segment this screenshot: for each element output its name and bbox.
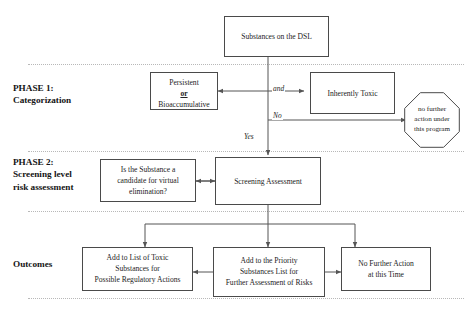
node-label-line1: Add to the Priority bbox=[216, 255, 322, 266]
node-label-line2: at this Time bbox=[344, 269, 428, 280]
node-label-line1: Is the Substance a bbox=[103, 164, 193, 175]
node-label-line2-or: or bbox=[153, 88, 215, 99]
node-label-line1: No Further Action bbox=[344, 258, 428, 269]
node-label-line1: Persistent bbox=[153, 77, 215, 88]
node-inherently-toxic[interactable]: Inherently Toxic bbox=[310, 72, 395, 114]
node-label-line2: candidate for virtual bbox=[103, 175, 193, 186]
divider-phase1-top bbox=[28, 64, 464, 65]
node-label-line2: Substances for bbox=[85, 263, 190, 274]
node-no-further-action-at-this-time[interactable]: No Further Action at this Time bbox=[341, 247, 431, 291]
edge-label-no: No bbox=[272, 111, 283, 120]
node-no-further-action-under-this-program[interactable]: no further action under this program bbox=[404, 92, 460, 148]
node-add-to-list-of-toxic-substances[interactable]: Add to List of Toxic Substances for Poss… bbox=[82, 247, 193, 291]
node-label-line4: program bbox=[426, 125, 450, 133]
phase-label-outcomes: Outcomes bbox=[13, 258, 52, 270]
node-label: Screening Assessment bbox=[234, 176, 302, 187]
node-label-line3: elimination? bbox=[103, 186, 193, 197]
node-add-to-priority-substances-list[interactable]: Add to the Priority Substances List for … bbox=[213, 247, 325, 297]
node-label-line1: Add to List of Toxic bbox=[85, 252, 190, 263]
divider-phase2-bottom bbox=[28, 211, 464, 212]
phase-label-phase1: PHASE 1: Categorization bbox=[13, 82, 71, 107]
node-screening-assessment[interactable]: Screening Assessment bbox=[215, 157, 321, 205]
node-persistent-or-bioaccumulative[interactable]: Persistent or Bioaccumulative bbox=[150, 72, 218, 110]
node-label: Inherently Toxic bbox=[327, 88, 377, 99]
flowchart-canvas: PHASE 1: Categorization PHASE 2: Screeni… bbox=[0, 0, 464, 311]
node-label-line2: Substances List for bbox=[216, 266, 322, 277]
node-label-line3: Further Assessment of Risks bbox=[216, 277, 322, 288]
node-label: Substances on the DSL bbox=[241, 31, 312, 42]
node-label-line1: no bbox=[418, 105, 425, 113]
divider-phase1-bottom bbox=[28, 151, 464, 152]
divider-outcomes-bottom bbox=[28, 298, 464, 299]
phase-label-phase2: PHASE 2: Screening level risk assessment bbox=[13, 156, 74, 193]
node-virtual-elimination-question[interactable]: Is the Substance a candidate for virtual… bbox=[100, 159, 196, 202]
edge-label-and: and bbox=[272, 84, 285, 93]
node-label: no further action under this program bbox=[404, 105, 460, 135]
node-substances-on-the-dsl[interactable]: Substances on the DSL bbox=[224, 16, 329, 57]
node-label-line3: Possible Regulatory Actions bbox=[85, 274, 190, 285]
node-label-line3: Bioaccumulative bbox=[153, 99, 215, 110]
edge-label-yes: Yes bbox=[243, 132, 255, 141]
